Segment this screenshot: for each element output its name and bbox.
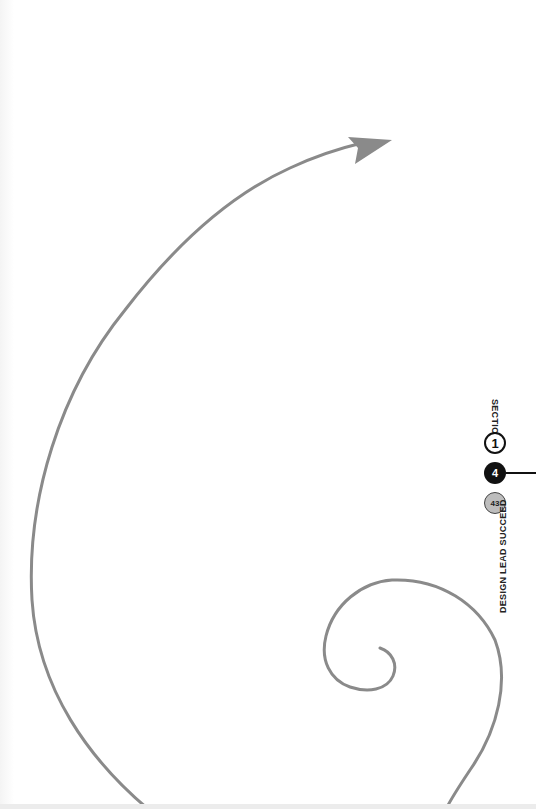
main-arc <box>31 143 362 809</box>
page: SECTION 1 4 43 DESIGN LEAD SUCCEED <box>0 0 536 809</box>
chapter-number-badge: 4 <box>484 462 506 484</box>
page-bottom-edge <box>0 804 536 809</box>
spiral-curve <box>324 580 501 809</box>
spiral-arrow-illustration <box>0 0 536 809</box>
chapter-leader-line <box>506 472 536 474</box>
arrowhead-icon <box>348 137 392 164</box>
section-number-badge: 1 <box>484 432 506 454</box>
book-title: DESIGN LEAD SUCCEED <box>498 499 508 613</box>
